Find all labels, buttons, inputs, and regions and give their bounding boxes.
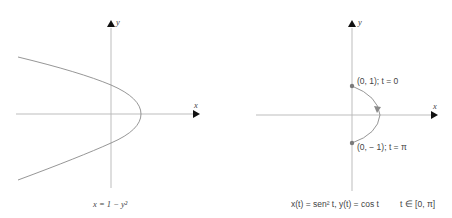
parabola-curve <box>18 57 141 180</box>
parametric-curve <box>352 86 380 143</box>
right-y-axis-label: y <box>358 17 362 27</box>
left-x-axis-arrow-icon <box>193 110 200 118</box>
left-graph <box>16 20 200 188</box>
diagram-canvas <box>0 0 452 218</box>
right-x-axis-label: x <box>433 101 437 111</box>
point-end <box>350 141 354 145</box>
left-x-axis-label: x <box>194 100 198 110</box>
right-y-axis-arrow-icon <box>348 20 356 27</box>
point-end-label: (0, − 1); t = π <box>357 142 407 152</box>
point-start-label: (0, 1); t = 0 <box>357 76 398 86</box>
left-y-axis-label: y <box>116 17 120 27</box>
left-y-axis-arrow-icon <box>107 20 115 27</box>
right-caption-domain: t ∈ [0, π] <box>400 199 435 209</box>
right-caption-equation: x(t) = sen² t, y(t) = cos t <box>291 199 379 209</box>
right-graph <box>256 20 438 191</box>
right-x-axis-arrow-icon <box>431 111 438 119</box>
left-caption: x = 1 − y² <box>93 199 127 209</box>
point-start <box>350 84 354 88</box>
